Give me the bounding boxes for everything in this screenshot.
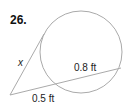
internal-segment-label: 0.8 ft [74,62,96,73]
tangent-secant-diagram: x 0.8 ft 0.5 ft [0,0,134,108]
tangent-segment [10,34,44,95]
tangent-length-label: x [17,57,24,68]
external-segment-label: 0.5 ft [32,93,54,104]
secant-line [10,68,121,95]
circle [40,11,122,93]
